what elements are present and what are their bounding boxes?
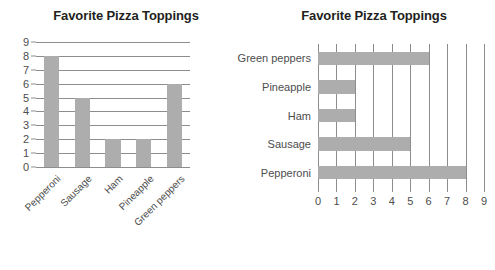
x-axis-tick bbox=[447, 187, 448, 192]
bar bbox=[167, 84, 182, 167]
x-axis-tick-label: 4 bbox=[389, 196, 395, 207]
horizontal-chart-plot-area: 0123456789Green peppersPineappleHamSausa… bbox=[318, 44, 484, 187]
bar bbox=[318, 137, 410, 150]
x-axis-tick bbox=[410, 187, 411, 192]
x-axis-tick bbox=[318, 187, 319, 192]
x-axis-tick-label: 5 bbox=[407, 196, 413, 207]
y-axis-tick bbox=[31, 139, 36, 140]
gridline-vertical bbox=[466, 44, 467, 187]
x-axis-tick bbox=[373, 187, 374, 192]
chart-title-right: Favorite Pizza Toppings bbox=[247, 8, 495, 23]
y-axis-category-label: Pepperoni bbox=[261, 167, 311, 179]
y-axis-tick-label: 3 bbox=[23, 120, 29, 131]
y-axis-tick-label: 4 bbox=[23, 106, 29, 117]
y-axis-tick bbox=[31, 97, 36, 98]
x-axis-tick bbox=[355, 187, 356, 192]
gridline-horizontal bbox=[36, 167, 190, 168]
x-axis-tick bbox=[429, 187, 430, 192]
x-axis-tick bbox=[484, 187, 485, 192]
x-axis-tick-label: 0 bbox=[315, 196, 321, 207]
y-axis-tick-label: 0 bbox=[23, 162, 29, 173]
y-axis-tick bbox=[31, 167, 36, 168]
x-axis-tick-label: 1 bbox=[333, 196, 339, 207]
y-axis-category-label: Pineapple bbox=[262, 81, 311, 93]
x-axis-tick-label: 8 bbox=[462, 196, 468, 207]
gridline-horizontal bbox=[36, 42, 190, 43]
chart-title-left: Favorite Pizza Toppings bbox=[0, 8, 248, 23]
y-axis-tick bbox=[31, 153, 36, 154]
bar bbox=[44, 56, 59, 167]
y-axis-tick-label: 2 bbox=[23, 134, 29, 145]
y-axis-category-label: Sausage bbox=[268, 138, 311, 150]
bar bbox=[318, 109, 355, 122]
x-axis-tick-label: 2 bbox=[352, 196, 358, 207]
horizontal-bar-chart-figure: Favorite Pizza Toppings 0123456789Green … bbox=[247, 0, 495, 270]
bar bbox=[105, 139, 120, 167]
y-axis-tick bbox=[31, 55, 36, 56]
x-axis-tick-label: 9 bbox=[481, 196, 487, 207]
y-axis-tick-label: 8 bbox=[23, 50, 29, 61]
x-axis-tick bbox=[392, 187, 393, 192]
y-axis-tick bbox=[31, 125, 36, 126]
x-axis-tick bbox=[336, 187, 337, 192]
vertical-bar-chart-figure: Favorite Pizza Toppings 0123456789Pepper… bbox=[0, 0, 248, 270]
bar bbox=[318, 52, 429, 65]
x-axis-category-label: Pepperoni bbox=[23, 173, 63, 213]
x-axis-category-label: Sausage bbox=[58, 173, 94, 209]
gridline-horizontal bbox=[36, 56, 190, 57]
y-axis-tick bbox=[31, 42, 36, 43]
y-axis-tick-label: 9 bbox=[23, 37, 29, 48]
bar bbox=[136, 139, 151, 167]
y-axis-tick bbox=[31, 83, 36, 84]
x-axis-tick-label: 6 bbox=[426, 196, 432, 207]
y-axis-tick-label: 7 bbox=[23, 64, 29, 75]
gridline-horizontal bbox=[36, 70, 190, 71]
y-axis-tick-label: 5 bbox=[23, 92, 29, 103]
x-axis-tick-label: 7 bbox=[444, 196, 450, 207]
gridline-vertical bbox=[484, 44, 485, 187]
x-axis-tick bbox=[466, 187, 467, 192]
y-axis-category-label: Green peppers bbox=[238, 52, 311, 64]
y-axis-tick bbox=[31, 69, 36, 70]
y-axis-tick-label: 6 bbox=[23, 78, 29, 89]
y-axis-tick-label: 1 bbox=[23, 148, 29, 159]
vertical-chart-plot-area: 0123456789PepperoniSausageHamPineappleGr… bbox=[36, 42, 190, 167]
bar bbox=[75, 98, 90, 167]
bar bbox=[318, 166, 466, 179]
x-axis-tick-label: 3 bbox=[370, 196, 376, 207]
bar bbox=[318, 80, 355, 93]
y-axis-tick bbox=[31, 111, 36, 112]
y-axis-category-label: Ham bbox=[288, 110, 311, 122]
x-axis-category-label: Ham bbox=[102, 173, 125, 196]
